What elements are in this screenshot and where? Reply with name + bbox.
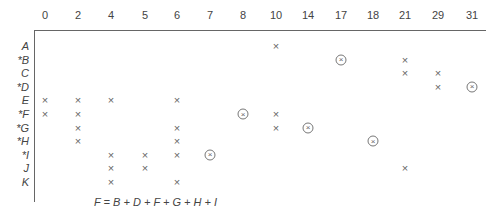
x-mark-icon: × xyxy=(402,54,408,65)
column-header: 31 xyxy=(466,9,478,21)
x-mark-icon: × xyxy=(108,149,114,160)
header-divider xyxy=(34,30,486,31)
row-label: A xyxy=(0,40,29,52)
circled-x-icon: × xyxy=(303,122,314,133)
x-mark-icon: × xyxy=(273,41,279,52)
column-header: 5 xyxy=(142,9,148,21)
column-header: 0 xyxy=(42,9,48,21)
column-header: 10 xyxy=(270,9,282,21)
x-mark-icon: × xyxy=(402,68,408,79)
x-mark-icon: × xyxy=(273,109,279,120)
circled-x-icon: × xyxy=(238,109,249,120)
x-mark-icon: × xyxy=(108,177,114,188)
x-mark-icon: × xyxy=(75,95,81,106)
x-mark-icon: × xyxy=(75,136,81,147)
column-header: 4 xyxy=(108,9,114,21)
column-header: 14 xyxy=(302,9,314,21)
x-mark-icon: × xyxy=(142,163,148,174)
x-mark-icon: × xyxy=(174,177,180,188)
x-mark-icon: × xyxy=(75,122,81,133)
row-label: *H xyxy=(0,135,29,147)
circled-x-icon: × xyxy=(205,149,216,160)
x-mark-icon: × xyxy=(174,122,180,133)
x-mark-icon: × xyxy=(108,95,114,106)
row-label: E xyxy=(0,94,29,106)
x-mark-icon: × xyxy=(75,109,81,120)
x-mark-icon: × xyxy=(108,163,114,174)
row-label: K xyxy=(0,176,29,188)
row-label: *B xyxy=(0,54,29,66)
column-header: 18 xyxy=(367,9,379,21)
x-mark-icon: × xyxy=(402,163,408,174)
circled-x-icon: × xyxy=(336,54,347,65)
column-header: 7 xyxy=(207,9,213,21)
row-label-divider xyxy=(34,30,35,202)
row-label: C xyxy=(0,67,29,79)
row-label: *G xyxy=(0,122,29,134)
column-header: 2 xyxy=(75,9,81,21)
x-mark-icon: × xyxy=(435,68,441,79)
result-formula: F = B + D + F + G + H + I xyxy=(94,196,217,208)
column-header: 8 xyxy=(240,9,246,21)
x-mark-icon: × xyxy=(435,81,441,92)
row-label: *I xyxy=(0,149,29,161)
x-mark-icon: × xyxy=(142,149,148,160)
column-header: 17 xyxy=(335,9,347,21)
x-mark-icon: × xyxy=(174,95,180,106)
column-header: 6 xyxy=(174,9,180,21)
column-header: 29 xyxy=(432,9,444,21)
circled-x-icon: × xyxy=(368,136,379,147)
x-mark-icon: × xyxy=(174,149,180,160)
x-mark-icon: × xyxy=(273,122,279,133)
x-mark-icon: × xyxy=(42,109,48,120)
row-label: J xyxy=(0,162,29,174)
x-mark-icon: × xyxy=(174,136,180,147)
column-header: 21 xyxy=(399,9,411,21)
circled-x-icon: × xyxy=(467,81,478,92)
x-mark-icon: × xyxy=(42,95,48,106)
row-label: *F xyxy=(0,108,29,120)
row-label: *D xyxy=(0,81,29,93)
